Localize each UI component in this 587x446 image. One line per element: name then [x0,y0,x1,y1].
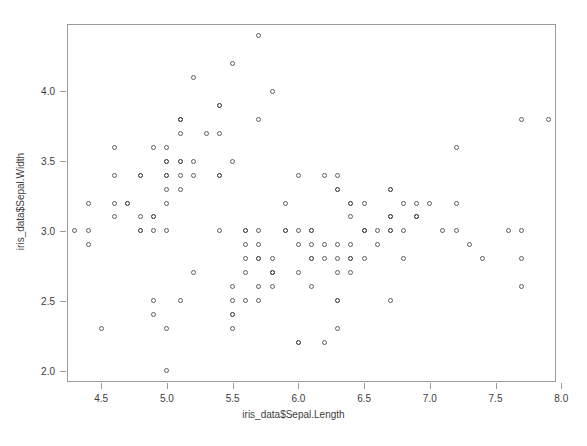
x-axis-tick-label: 8.0 [554,393,568,404]
x-axis-tick-mark [561,383,562,389]
y-axis-tick-mark [60,161,66,162]
y-axis-tick-label: 2.5 [29,295,55,306]
x-axis-tick-mark [364,383,365,389]
y-axis-tick-label: 2.0 [29,365,55,376]
y-axis-tick-mark [60,371,66,372]
x-axis-tick-mark [430,383,431,389]
x-axis-tick-label: 5.0 [160,393,174,404]
x-axis-tick-mark [167,383,168,389]
y-axis-label: iris_data$Sepal.Width [15,122,26,282]
x-axis-tick-label: 4.5 [94,393,108,404]
y-axis-tick-label: 3.0 [29,225,55,236]
y-axis-tick-label: 3.5 [29,156,55,167]
y-axis-tick-mark [60,301,66,302]
scatter-plot-figure: 4.55.05.56.06.57.07.58.02.02.53.03.54.0 … [0,0,587,446]
x-axis-tick-label: 7.5 [489,393,503,404]
x-axis-label: iris_data$Sepal.Length [0,409,587,420]
y-axis-tick-label: 4.0 [29,86,55,97]
y-axis-tick-mark [60,91,66,92]
x-axis-tick-mark [496,383,497,389]
x-axis-tick-label: 7.0 [423,393,437,404]
y-axis-tick-mark [60,231,66,232]
x-axis-tick-mark [298,383,299,389]
x-axis-tick-mark [233,383,234,389]
x-axis-tick-label: 6.5 [357,393,371,404]
x-axis-tick-label: 6.0 [291,393,305,404]
x-axis-tick-mark [101,383,102,389]
plot-frame [67,24,556,382]
x-axis-tick-label: 5.5 [226,393,240,404]
